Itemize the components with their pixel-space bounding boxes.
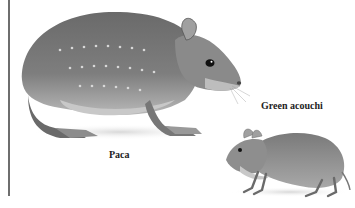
- green-acouchi-label: Green acouchi: [261, 100, 323, 111]
- paca-label: Paca: [109, 149, 130, 160]
- paca-figure: [22, 12, 250, 140]
- green-acouchi-figure: [226, 129, 350, 197]
